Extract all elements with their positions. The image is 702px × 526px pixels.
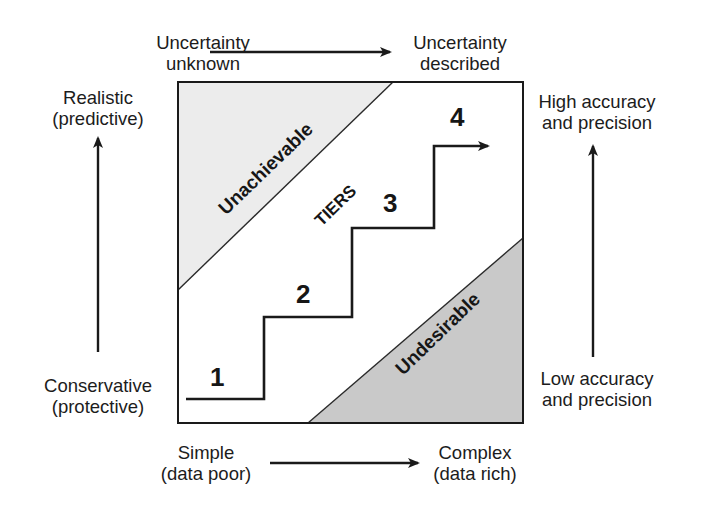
top-axis-end-line-2: described bbox=[400, 53, 520, 74]
top-axis-end-label: Uncertainty described bbox=[400, 32, 520, 74]
right-axis-top-line-2: and precision bbox=[527, 112, 667, 133]
bottom-axis-start-line-1: Simple bbox=[148, 442, 264, 463]
bottom-axis-start-label: Simple (data poor) bbox=[148, 442, 264, 484]
tier-3-label: 3 bbox=[383, 190, 397, 216]
bottom-axis-end-label: Complex (data rich) bbox=[420, 442, 530, 484]
right-axis-bottom-line-1: Low accuracy bbox=[527, 368, 667, 389]
left-axis-bottom-line-2: (protective) bbox=[28, 396, 168, 417]
top-axis-start-label: Uncertainty unknown bbox=[138, 32, 268, 74]
right-axis-bottom-line-2: and precision bbox=[527, 389, 667, 410]
left-axis-top-line-1: Realistic bbox=[35, 87, 161, 108]
left-axis-bottom-label: Conservative (protective) bbox=[28, 375, 168, 417]
left-axis-top-label: Realistic (predictive) bbox=[35, 87, 161, 129]
top-axis-start-line-2: unknown bbox=[138, 53, 268, 74]
right-axis-bottom-label: Low accuracy and precision bbox=[527, 368, 667, 410]
tier-2-label: 2 bbox=[296, 281, 310, 307]
bottom-axis-end-line-1: Complex bbox=[420, 442, 530, 463]
top-axis-end-line-1: Uncertainty bbox=[400, 32, 520, 53]
diagram-graphics bbox=[0, 0, 702, 526]
bottom-axis-start-line-2: (data poor) bbox=[148, 463, 264, 484]
tier-4-label: 4 bbox=[450, 104, 464, 130]
right-axis-top-label: High accuracy and precision bbox=[527, 91, 667, 133]
left-axis-top-line-2: (predictive) bbox=[35, 108, 161, 129]
top-axis-start-line-1: Uncertainty bbox=[138, 32, 268, 53]
diagram-canvas: Uncertainty unknown Uncertainty describe… bbox=[0, 0, 702, 526]
tier-1-label: 1 bbox=[210, 364, 224, 390]
right-axis-top-line-1: High accuracy bbox=[527, 91, 667, 112]
left-axis-bottom-line-1: Conservative bbox=[28, 375, 168, 396]
bottom-axis-end-line-2: (data rich) bbox=[420, 463, 530, 484]
